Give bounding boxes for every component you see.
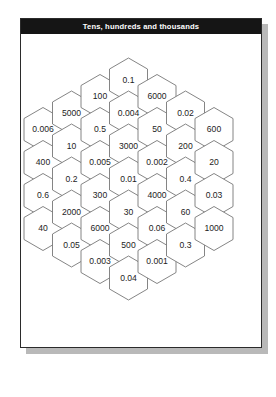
hexagon-value-label: 0.004: [118, 108, 140, 118]
hexagon-value-label: 300: [93, 190, 108, 200]
hexagon-value-label: 0.001: [146, 256, 168, 266]
hexagon-value-label: 30: [124, 207, 134, 217]
hexagon-value-label: 50: [152, 124, 162, 134]
worksheet-card: Tens, hundreds and thousands 0.0064000.6…: [20, 18, 262, 348]
page-title: Tens, hundreds and thousands: [83, 22, 199, 31]
hexagon-value-label: 0.4: [180, 174, 192, 184]
hexagon-value-label: 0.5: [94, 124, 106, 134]
hexagon-value-label: 400: [36, 157, 51, 167]
hexagon-value-label: 40: [38, 223, 48, 233]
hexagon-value-label: 1000: [204, 223, 223, 233]
hexagon-value-label: 0.6: [37, 190, 49, 200]
hexagon-value-label: 0.002: [146, 157, 168, 167]
hexagon-value-label: 0.1: [123, 75, 135, 85]
hexagon-value-label: 60: [181, 207, 191, 217]
hexagon-value-label: 0.006: [32, 124, 54, 134]
hexagon-value-label: 5000: [62, 108, 81, 118]
hexagon-value-label: 6000: [147, 91, 166, 101]
hexagon-grid-area: 0.0064000.6405000100.220000.051000.50.00…: [21, 34, 261, 347]
hexagon-value-label: 4000: [147, 190, 166, 200]
hexagon-value-label: 500: [121, 240, 136, 250]
hexagon-value-label: 0.06: [149, 223, 166, 233]
hexagon-value-label: 0.3: [180, 240, 192, 250]
hexagon-value-label: 3000: [119, 141, 138, 151]
hexagon-value-label: 0.01: [120, 174, 137, 184]
hexagon-value-label: 10: [67, 141, 77, 151]
hexagon-value-label: 0.003: [89, 256, 111, 266]
hexagon-value-label: 2000: [62, 207, 81, 217]
page-root: Tens, hundreds and thousands 0.0064000.6…: [0, 0, 276, 397]
hexagon-honeycomb: 0.0064000.6405000100.220000.051000.50.00…: [21, 34, 260, 347]
hexagon-value-label: 6000: [90, 223, 109, 233]
hexagon-value-label: 20: [209, 157, 219, 167]
hexagon-value-label: 0.005: [89, 157, 111, 167]
hexagon-value-label: 100: [93, 91, 108, 101]
title-bar: Tens, hundreds and thousands: [21, 19, 261, 34]
hexagon-value-label: 200: [178, 141, 193, 151]
hexagon-value-label: 0.02: [177, 108, 194, 118]
hexagon-value-label: 0.04: [120, 273, 137, 283]
hexagon-value-label: 0.05: [63, 240, 80, 250]
hexagon-value-label: 0.03: [206, 190, 223, 200]
hexagon-value-label: 0.2: [66, 174, 78, 184]
hexagon-value-label: 600: [207, 124, 222, 134]
